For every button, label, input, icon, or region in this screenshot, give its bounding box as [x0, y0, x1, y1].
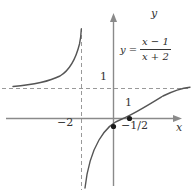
equation-fraction: x − 1 x + 2 — [140, 36, 171, 62]
curve-right-branch — [85, 87, 190, 188]
equation-numerator: x − 1 — [140, 36, 171, 48]
y-axis-label: y — [151, 8, 157, 19]
tick-label-neg-one-half: −1/2 — [121, 120, 148, 131]
y-axis-arrow-icon — [110, 13, 117, 22]
tick-label-neg-two: −2 — [57, 117, 73, 128]
curve-left-branch — [13, 29, 81, 87]
equation-lhs: y — [120, 44, 126, 55]
function-equation-label: y = x − 1 x + 2 — [120, 36, 171, 62]
x-axis-label: x — [176, 122, 182, 133]
function-graph-figure: y x −2 1 1 −1/2 y = x − 1 x + 2 — [0, 0, 192, 192]
equation-relation: = — [129, 44, 137, 55]
equation-denominator: x + 2 — [140, 51, 171, 63]
point-y-intercept — [111, 124, 116, 129]
tick-label-y-one: 1 — [100, 71, 107, 82]
tick-label-x-one: 1 — [125, 97, 132, 108]
plot-canvas — [0, 0, 192, 192]
fraction-bar — [140, 49, 171, 50]
